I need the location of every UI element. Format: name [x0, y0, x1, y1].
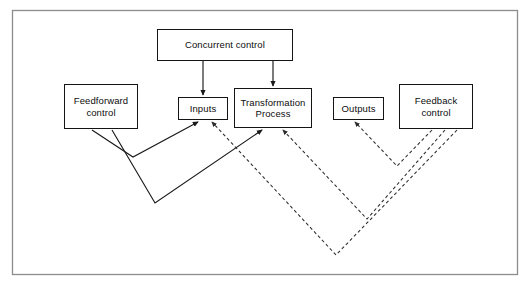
node-concurrent-control-label: Concurrent control	[158, 39, 292, 50]
node-transformation-process[interactable]: Transformation Process	[234, 88, 312, 128]
node-outputs-label: Outputs	[334, 103, 383, 114]
node-inputs[interactable]: Inputs	[178, 97, 228, 120]
node-feedback-control-label: Feedback control	[400, 95, 472, 117]
node-concurrent-control[interactable]: Concurrent control	[157, 29, 293, 61]
node-feedback-control[interactable]: Feedback control	[399, 84, 473, 129]
node-feedforward-control-label: Feedforward control	[65, 95, 137, 117]
node-outputs[interactable]: Outputs	[333, 97, 384, 120]
node-inputs-label: Inputs	[179, 103, 227, 114]
node-transformation-process-label: Transformation Process	[235, 97, 311, 119]
control-model-diagram: Concurrent control Feedforward control I…	[0, 0, 532, 285]
node-feedforward-control[interactable]: Feedforward control	[64, 84, 138, 129]
